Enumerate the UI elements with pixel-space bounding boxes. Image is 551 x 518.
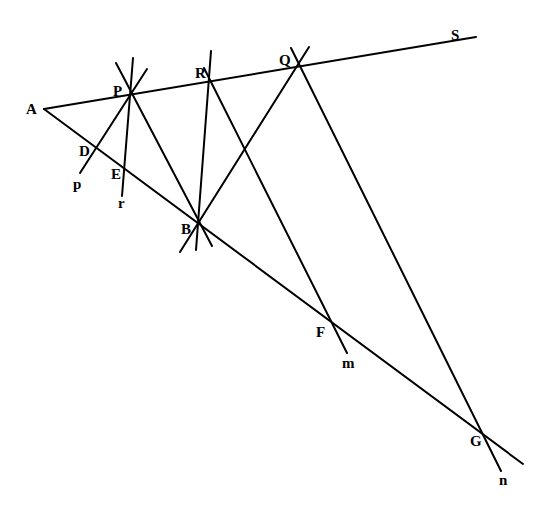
line-n xyxy=(291,48,501,471)
point-label-S: S xyxy=(451,27,459,43)
ray-AS xyxy=(44,37,476,109)
line-label-m: m xyxy=(342,355,355,371)
point-label-Q: Q xyxy=(279,52,291,68)
line-m xyxy=(204,68,347,353)
point-label-P: P xyxy=(113,83,122,99)
line-label-p: p xyxy=(73,176,81,192)
point-label-D: D xyxy=(79,143,90,159)
point-label-A: A xyxy=(26,101,37,117)
geometry-diagram: A P R Q S D E B F G p r m n xyxy=(0,0,551,518)
point-label-B: B xyxy=(181,221,191,237)
ray-AG xyxy=(44,109,523,464)
point-label-R: R xyxy=(195,65,206,81)
point-label-F: F xyxy=(316,324,325,340)
point-label-E: E xyxy=(111,166,121,182)
point-label-G: G xyxy=(470,433,482,449)
line-label-n: n xyxy=(499,472,508,488)
line-label-r: r xyxy=(118,195,125,211)
